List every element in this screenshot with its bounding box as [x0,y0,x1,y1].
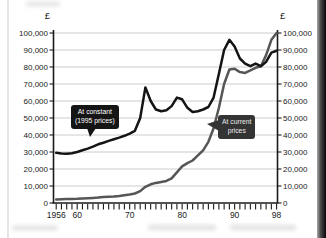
y-axis-currency-symbol-right: £ [280,10,286,21]
constant-prices-callout-line2: (1995 prices) [75,117,115,124]
print-bleed-smudge [230,225,296,230]
x-tick-label: 1956 [47,210,66,220]
y-axis-currency-symbol-left: £ [45,10,51,21]
constant-prices-callout-line1: At constant [78,108,112,115]
current-prices-callout-line2: prices [228,127,246,134]
x-tick-label: 60 [72,210,82,220]
print-bleed-smudge [12,226,58,230]
y-tick-label-left: 50,000 [24,114,49,123]
current-prices-callout-line1: At current [222,118,251,125]
x-tick-label: 80 [177,210,187,220]
x-tick-label: 98 [272,210,282,220]
y-tick-label-left: 90,000 [24,46,49,55]
y-tick-label-right: 40,000 [283,131,308,140]
x-tick-label: 70 [125,210,135,220]
y-tick-label-left: 30,000 [24,148,49,157]
y-tick-label-right: 90,000 [283,46,308,55]
current-prices-callout: At current prices [218,115,255,139]
constant-prices-callout: At constant (1995 prices) [71,105,119,129]
y-tick-label-right: 100,000 [283,29,312,38]
y-tick-label-right: 0 [283,199,288,208]
y-tick-label-right: 10,000 [283,182,308,191]
house-prices-line-chart: 0010,00010,00020,00020,00030,00030,00040… [0,0,326,238]
y-tick-label-right: 50,000 [283,114,308,123]
x-tick-label: 90 [230,210,240,220]
print-bleed-smudge [26,2,60,6]
print-bleed-smudge [148,225,216,230]
y-tick-label-right: 20,000 [283,165,308,174]
y-tick-label-left: 60,000 [24,97,49,106]
page-scan-right-edge [317,0,326,238]
y-tick-label-left: 70,000 [24,80,49,89]
y-tick-label-left: 40,000 [24,131,49,140]
y-tick-label-right: 80,000 [283,63,308,72]
y-tick-label-right: 30,000 [283,148,308,157]
y-tick-label-left: 80,000 [24,63,49,72]
y-tick-label-left: 0 [44,199,49,208]
page-scan-left-line [7,0,9,238]
y-tick-label-right: 70,000 [283,80,308,89]
y-tick-label-right: 60,000 [283,97,308,106]
y-tick-label-left: 100,000 [19,29,48,38]
y-tick-label-left: 20,000 [24,165,49,174]
y-tick-label-left: 10,000 [24,182,49,191]
